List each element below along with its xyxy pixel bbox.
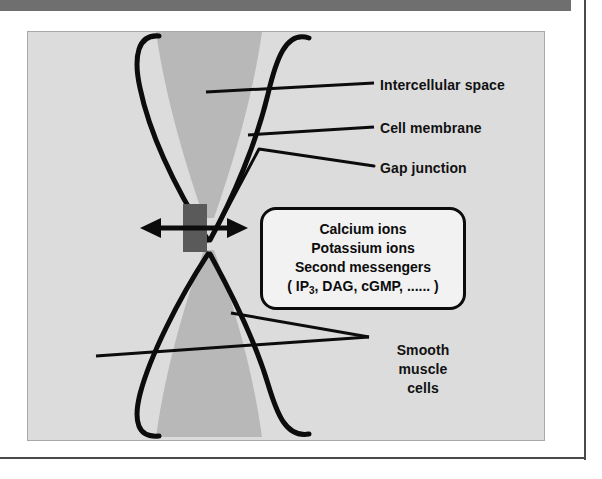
callout-line-calcium-ions: Calcium ions xyxy=(319,220,406,238)
label-cell-membrane: Cell membrane xyxy=(380,120,482,136)
intercellular-space-lower-wedge xyxy=(156,250,262,437)
figure-panel: Intercellular space Cell membrane Gap ju… xyxy=(27,31,545,441)
callout-ip3-prefix: ( IP xyxy=(287,278,309,294)
scan-right-rule xyxy=(584,0,586,460)
callout-line-messenger-examples: ( IP3, DAG, cGMP, ...... ) xyxy=(287,277,439,297)
signalling-molecules-callout: Calcium ions Potassium ions Second messe… xyxy=(260,207,466,310)
callout-ip3-subscript: 3 xyxy=(309,285,315,296)
callout-examples-suffix: , DAG, cGMP, ...... ) xyxy=(315,278,439,294)
label-gap-junction: Gap junction xyxy=(380,160,467,176)
scan-top-bar xyxy=(0,0,571,11)
label-intercellular-space: Intercellular space xyxy=(380,77,505,93)
leader-line-cell-membrane xyxy=(248,127,374,135)
diagram-page: Intercellular space Cell membrane Gap ju… xyxy=(0,0,602,479)
callout-line-potassium-ions: Potassium ions xyxy=(311,239,414,257)
gap-junction-plaque-lower xyxy=(183,230,207,252)
callout-line-second-messengers: Second messengers xyxy=(295,258,431,276)
label-smooth-muscle-cells: Smooth muscle cells xyxy=(380,341,466,398)
scan-bottom-rule xyxy=(0,457,586,459)
gap-junction-plaque-upper xyxy=(183,204,207,226)
intercellular-space-upper-wedge xyxy=(156,32,262,218)
